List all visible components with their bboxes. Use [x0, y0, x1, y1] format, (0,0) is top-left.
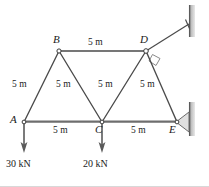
label-ab-left: 5 m	[12, 80, 27, 90]
wall-lower	[189, 102, 195, 136]
load-label-a: 30 kN	[6, 159, 31, 169]
label-cd-diagonal: 5 m	[98, 80, 113, 90]
label-ce-bottom: 5 m	[131, 126, 146, 136]
label-bc-diagonal: 5 m	[56, 80, 71, 90]
label-bd-top: 5 m	[88, 38, 103, 48]
joint-label-E: E	[169, 124, 176, 135]
member-AB	[24, 51, 59, 122]
support-link-d	[146, 20, 190, 66]
truss-figure: A B C D E 5 m 5 m 5 m 5 m 5 m 5 m 5 m 30…	[0, 0, 209, 187]
label-ac-bottom: 5 m	[53, 126, 68, 136]
joint-label-D: D	[140, 34, 148, 45]
figure-baseline	[0, 186, 209, 187]
label-de-diagonal: 5 m	[140, 80, 155, 90]
joint-label-A: A	[10, 114, 17, 125]
joint-B	[57, 49, 61, 53]
joint-label-B: B	[53, 34, 60, 45]
load-arrow-a	[21, 123, 28, 153]
joint-label-C: C	[95, 124, 102, 135]
load-label-c: 20 kN	[83, 159, 108, 169]
wall-upper	[189, 5, 195, 37]
joint-D	[144, 49, 149, 54]
